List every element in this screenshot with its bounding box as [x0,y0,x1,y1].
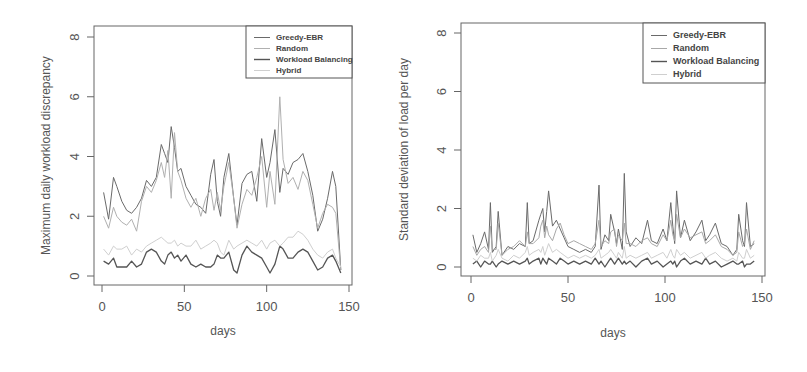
series-line-greedy-ebr [473,173,754,255]
series-line-hybrid [104,231,341,267]
y-tick-label: 4 [67,153,82,160]
y-tick-label: 2 [67,213,82,220]
legend-label: Workload Balancing [276,55,353,64]
y-axis: 02468Maximum daily workload discrepancy [39,33,94,279]
series-group [104,97,341,273]
x-tick-label: 100 [256,299,278,314]
series-line-random [104,97,341,270]
legend-label: Hybrid [276,66,301,75]
legend: Greedy-EBRRandomWorkload BalancingHybrid [246,26,353,78]
legend-label: Hybrid [673,69,702,79]
x-tick-label: 50 [561,290,575,305]
y-tick-label: 8 [67,33,82,40]
y-tick-label: 2 [434,205,449,212]
y-tick-label: 6 [67,93,82,100]
legend-label: Random [276,44,308,53]
y-tick-label: 0 [67,272,82,279]
legend-label: Greedy-EBR [673,30,727,40]
x-tick-label: 50 [177,299,191,314]
x-axis: 050100150days [98,285,359,338]
figure-canvas: 050100150days02468Maximum daily workload… [0,0,807,372]
series-line-workload-balancing [473,258,754,267]
series-group [473,173,754,267]
y-axis: 02468Standard deviation of load per day [397,29,461,270]
y-axis-label: Maximum daily workload discrepancy [39,56,53,255]
x-tick-label: 100 [654,290,676,305]
series-line-random [473,214,754,255]
legend-label: Random [673,43,709,53]
y-tick-label: 0 [434,263,449,270]
plot-std-dev-load: 050100150days02468Standard deviation of … [397,23,773,340]
y-tick-label: 8 [434,29,449,36]
y-tick-label: 6 [434,88,449,95]
plot-workload-discrepancy: 050100150days02468Maximum daily workload… [39,26,360,338]
x-tick-label: 150 [751,290,773,305]
legend-label: Workload Balancing [673,56,759,66]
x-tick-label: 0 [98,299,105,314]
x-tick-label: 0 [467,290,474,305]
x-axis: 050100150days [467,276,772,340]
legend: Greedy-EBRRandomWorkload BalancingHybrid [643,23,765,83]
x-tick-label: 150 [338,299,360,314]
y-tick-label: 4 [434,146,449,153]
y-axis-label: Standard deviation of load per day [397,58,411,241]
x-axis-label: days [210,324,235,338]
series-line-hybrid [473,244,754,262]
x-axis-label: days [600,326,625,340]
legend-label: Greedy-EBR [276,33,323,42]
